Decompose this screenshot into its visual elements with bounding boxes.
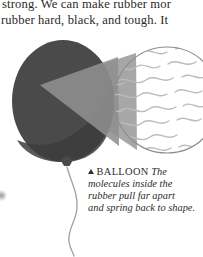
- caption-line-4: and spring back to shape.: [88, 202, 203, 214]
- page-root: strong. We can make rubber mor rubber ha…: [0, 0, 203, 257]
- body-text-block: strong. We can make rubber mor rubber ha…: [0, 0, 203, 28]
- balloon-illustration: [0, 30, 203, 257]
- body-text-line-1: strong. We can make rubber mor: [0, 0, 203, 13]
- caption-line-3: rubber pull far apart: [88, 190, 203, 202]
- body-text-line-2: rubber hard, black, and tough. It: [0, 13, 203, 29]
- caption-line-2: molecules inside the: [88, 178, 203, 190]
- caption-heading: BALLOON: [97, 166, 149, 177]
- triangle-up-icon: [88, 169, 94, 174]
- balloon-string: [67, 167, 77, 256]
- caption-line-1: BALLOON The: [88, 166, 203, 178]
- figure-caption: BALLOON The molecules inside the rubber …: [88, 166, 203, 214]
- caption-text-1: The: [151, 166, 167, 177]
